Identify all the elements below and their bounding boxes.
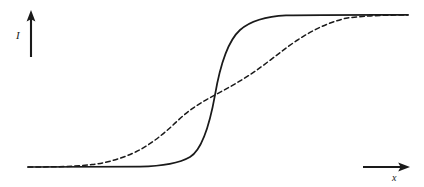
x-axis-label: x (391, 172, 397, 183)
figure-container: I x (0, 0, 424, 187)
sigmoid-curves-chart: I x (0, 0, 424, 187)
chart-background (0, 0, 424, 187)
